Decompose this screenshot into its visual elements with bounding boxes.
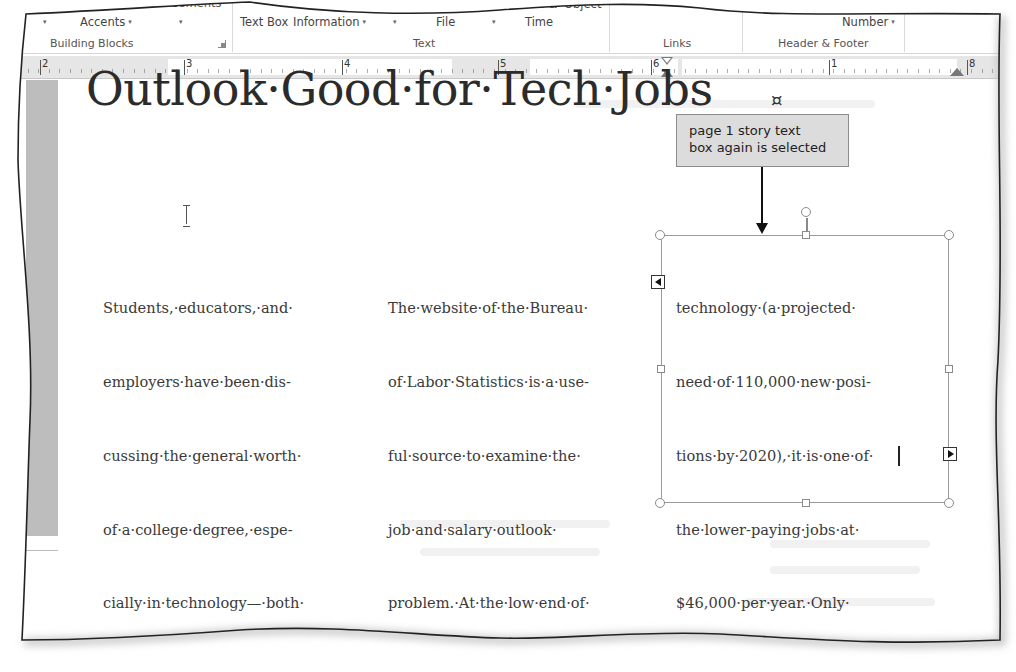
resize-handle-top[interactable] [802,231,810,239]
text-insertion-cursor [898,446,900,466]
callout-arrow-icon [756,223,768,234]
symbol-button[interactable]: ymbol [476,0,512,11]
previous-text-box-button[interactable] [651,275,665,289]
insert-file-button[interactable]: File [436,15,455,29]
ruler-major-tick [40,60,41,75]
page-number-label: Number [842,15,888,29]
ribbon-separator [232,0,233,52]
caret-down-icon: ▾ [393,18,397,26]
callout-line-2: box again is selected [689,139,848,156]
text-box-label: Text Box [240,15,288,29]
resize-handle-top-left[interactable] [655,230,665,240]
page-number-button[interactable]: Page [855,0,883,11]
building-block-dropdown-2[interactable]: ▾ [176,15,183,29]
text-dropdown[interactable]: ▾ [390,15,397,29]
next-text-box-button[interactable] [943,447,957,461]
ruler-label: 2 [42,58,48,69]
text-line: $46,000·per·year.·Only· [676,591,926,616]
text-box-button[interactable]: Text Box [240,15,288,29]
caret-down-icon: ▾ [43,18,47,26]
story-column-3[interactable]: technology·(a·projected· need·of·110,000… [676,247,926,672]
resize-handle-bottom-right[interactable] [944,498,954,508]
accents-label: Accents [80,15,125,29]
text-line: need·of·110,000·new·posi- [676,370,926,395]
text-line: ful·source·to·examine·the· [388,444,638,469]
group-label-header-footer: Header & Footer [778,37,869,50]
file-dropdown[interactable]: ▾ [489,15,496,29]
story-column-2[interactable]: The·website·of·the·Bureau· of·Labor·Stat… [388,247,638,672]
story-column-1[interactable]: Students,·educators,·and· employers·have… [103,247,353,672]
borders-advertisements-button[interactable]: ers & Advertisements [97,0,221,10]
caret-down-icon: ▾ [128,18,132,26]
text-line: the·scale·are·computer·sup- [388,665,638,672]
callout-pointer-line [761,167,763,225]
text-line: tions·by·2020),·it·is·one·of· [676,444,926,469]
accents-button[interactable]: Accents▾ [80,15,132,29]
text-line: in·dollars·and·job·growth.· [103,665,353,672]
text-line: employers·have·been·dis- [103,370,353,395]
margin-guide [26,550,58,551]
ribbon-separator [904,0,905,52]
text-line: cussing·the·general·worth· [103,444,353,469]
resize-handle-right[interactable] [945,365,953,373]
text-line: the·lower-paying·jobs·at· [676,518,926,543]
object-button[interactable]: Object [564,0,601,11]
date-time-button[interactable]: Date & [517,0,557,11]
ruler-label: 8 [969,58,975,69]
text-line: of·Labor·Statistics·is·a·use- [388,370,638,395]
group-label-building-blocks: Building Blocks [50,37,134,50]
text-line: some·college·education·is· [676,665,926,672]
headline-text[interactable]: Outlook·Good·for·Tech·Jobs [86,62,713,116]
text-line: The·website·of·the·Bureau· [388,296,638,321]
ribbon: ers & Advertisements ▾ Accents▾ ▾ Buildi… [0,0,1016,54]
right-indent-marker[interactable] [950,68,964,76]
text-line: job·and·salary·outlook· [388,518,638,543]
text-line: problem.·At·the·low·end·of· [388,591,638,616]
ruler-major-tick [967,60,968,75]
resize-handle-left[interactable] [657,365,665,373]
group-label-links: Links [663,37,691,50]
ribbon-separator [609,0,610,52]
anchor-icon: ¤ [771,89,782,110]
text-line: of·a·college·degree,·espe- [103,518,353,543]
information-label: Information [293,15,360,29]
caret-down-icon: ▾ [179,18,183,26]
text-line: Students,·educators,·and· [103,296,353,321]
date-time-button-line2[interactable]: Time [525,15,553,29]
caret-down-icon: ▾ [492,18,496,26]
text-line: technology·(a·projected· [676,296,926,321]
text-line: cially·in·technology—·both· [103,591,353,616]
callout-line-1: page 1 story text [689,122,848,139]
caret-down-icon: ▾ [891,18,895,26]
group-label-text: Text [413,37,435,50]
rotation-handle[interactable] [801,207,811,217]
page-number-button-line2[interactable]: Number▾ [842,15,895,29]
page-margin-gray-area [26,80,58,536]
resize-handle-top-right[interactable] [944,230,954,240]
caret-down-icon: ▾ [363,18,367,26]
ibeam-cursor-icon [182,204,192,226]
ruler-label: 1 [831,58,837,69]
dialog-launcher-icon[interactable] [218,40,226,48]
building-block-dropdown-1[interactable]: ▾ [40,15,47,29]
resize-handle-bottom-left[interactable] [655,498,665,508]
information-button[interactable]: Information▾ [293,15,366,29]
ruler-major-tick [829,60,830,75]
ribbon-separator [742,0,743,52]
callout-annotation: page 1 story text box again is selected [676,114,849,167]
